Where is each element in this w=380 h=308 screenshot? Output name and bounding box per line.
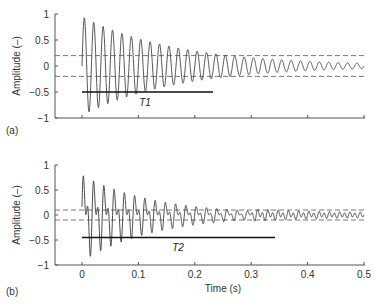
panel-b-y-tick-label: −1 [38, 260, 50, 271]
panel-a-y-tick-label: −0.5 [29, 87, 49, 98]
panel-a-y-tick-label: 0.5 [35, 35, 49, 46]
panel-b-x-tick-label: 0.1 [131, 269, 145, 280]
panel-a-y-tick-label: 1 [43, 9, 49, 20]
panel-b-x-tick-label: 0.3 [244, 269, 258, 280]
panel-b-y-tick-label: 1 [43, 160, 49, 171]
panel-a-signal-line [82, 18, 364, 112]
panel-a-y-label: Amplitude (–) [11, 36, 22, 95]
panel-b-x-tick-label: 0.5 [357, 269, 371, 280]
panel-b-label: (b) [6, 286, 18, 297]
panel-b-x-label: Time (s) [205, 283, 241, 294]
panel-b: 10.50−0.5−1 00.10.20.30.40.5 T2 Amplitud… [6, 160, 371, 298]
panel-b-t2-label: T2 [172, 242, 184, 253]
panel-a-label: (a) [6, 125, 18, 136]
panel-a-t1-label: T1 [139, 97, 151, 108]
panel-b-y-label: Amplitude (–) [11, 185, 22, 244]
panel-b-x-tick-label: 0.4 [301, 269, 315, 280]
panel-b-x-tick-label: 0.2 [188, 269, 202, 280]
panel-b-y-tick-label: 0 [43, 210, 49, 221]
figure: 10.50−0.5−1 T1 Amplitude (–) (a) 10.50−0… [0, 0, 380, 308]
panel-a: 10.50−0.5−1 T1 Amplitude (–) (a) [6, 9, 365, 137]
panel-b-y-tick-label: 0.5 [35, 185, 49, 196]
panel-a-y-ticks: 10.50−0.5−1 [29, 9, 58, 124]
panel-b-x-tick-label: 0 [79, 269, 85, 280]
panel-b-y-tick-label: −0.5 [29, 235, 49, 246]
panel-b-y-ticks: 10.50−0.5−1 [29, 160, 58, 271]
panel-b-signal-line [82, 176, 364, 256]
panel-a-y-tick-label: 0 [43, 61, 49, 72]
panel-a-y-tick-label: −1 [38, 113, 50, 124]
